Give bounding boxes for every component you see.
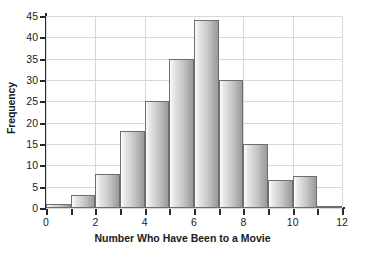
y-axis-tick-label: 35 <box>4 53 38 65</box>
x-axis-tick-mark <box>145 209 147 215</box>
histogram-bar <box>243 144 268 208</box>
x-axis-tick-label: 8 <box>228 216 258 228</box>
x-axis-tick-mark <box>293 209 295 215</box>
x-axis-tick-mark <box>219 209 221 215</box>
x-axis-tick-mark <box>71 209 73 215</box>
y-axis-tick-label: 10 <box>4 159 38 171</box>
y-axis-tick-mark <box>40 59 46 61</box>
y-axis-tick-mark <box>40 37 46 39</box>
histogram-bar <box>219 80 244 208</box>
y-axis-tick-mark <box>40 80 46 82</box>
histogram-bar <box>194 20 219 208</box>
x-axis-title: Number Who Have Been to a Movie <box>0 232 365 244</box>
x-axis-tick-label: 12 <box>327 216 357 228</box>
x-axis-tick-mark <box>317 209 319 215</box>
x-axis-tick-mark <box>243 209 245 215</box>
x-axis-tick-mark <box>46 209 48 215</box>
gridline-vertical <box>342 16 343 208</box>
x-axis-tick-mark <box>342 209 344 215</box>
y-axis-tick-mark <box>40 187 46 189</box>
y-axis-tick-mark <box>40 123 46 125</box>
y-axis-tick-label: 30 <box>4 74 38 86</box>
x-axis-tick-mark <box>194 209 196 215</box>
x-axis-tick-mark <box>95 209 97 215</box>
x-axis-tick-label: 10 <box>278 216 308 228</box>
x-axis-tick-label: 4 <box>130 216 160 228</box>
y-axis-tick-label: 45 <box>4 10 38 22</box>
histogram-bar <box>293 176 318 208</box>
y-axis-tick-mark <box>40 144 46 146</box>
histogram-bar <box>46 204 71 208</box>
y-axis-tick-label: 25 <box>4 95 38 107</box>
y-axis-tick-label: 20 <box>4 117 38 129</box>
histogram-chart: Frequency 051015202530354045 Number Who … <box>0 0 365 255</box>
histogram-bar <box>317 206 342 208</box>
x-axis-tick-mark <box>268 209 270 215</box>
y-axis-tick-label: 15 <box>4 138 38 150</box>
histogram-bar <box>71 195 96 208</box>
histogram-bar <box>268 180 293 208</box>
x-axis-tick-mark <box>120 209 122 215</box>
y-axis-tick-label: 0 <box>4 202 38 214</box>
y-axis-tick-label: 5 <box>4 181 38 193</box>
histogram-bar <box>169 59 194 208</box>
histogram-bar <box>120 131 145 208</box>
y-axis-tick-mark <box>40 101 46 103</box>
x-axis-tick-label: 2 <box>80 216 110 228</box>
plot-area <box>46 16 342 208</box>
histogram-bar <box>95 174 120 208</box>
x-axis-tick-label: 0 <box>31 216 61 228</box>
x-axis-tick-label: 6 <box>179 216 209 228</box>
y-axis-tick-label: 40 <box>4 31 38 43</box>
gridline-vertical <box>46 16 47 208</box>
y-axis-tick-mark <box>40 16 46 18</box>
y-axis-tick-mark <box>40 165 46 167</box>
x-axis-tick-mark <box>169 209 171 215</box>
histogram-bar <box>145 101 170 208</box>
